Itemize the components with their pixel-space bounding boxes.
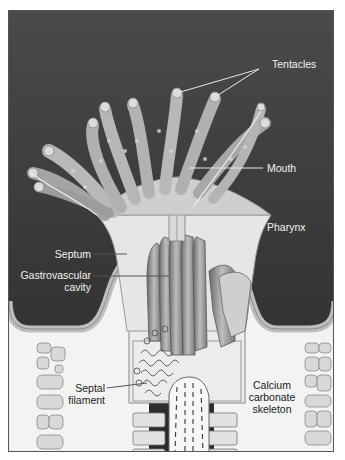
skeleton-spine	[169, 377, 209, 452]
label-gastrovascular-line2: cavity	[15, 281, 91, 293]
label-septal-line2: filament	[49, 394, 105, 406]
label-calcium-line3: skeleton	[243, 403, 301, 415]
label-calcium-carbonate-skeleton: Calcium carbonate skeleton	[243, 379, 301, 415]
label-gastrovascular-line1: Gastrovascular	[15, 269, 91, 281]
label-pharynx: Pharynx	[267, 221, 306, 233]
label-calcium-line1: Calcium	[243, 379, 301, 391]
label-gastrovascular-cavity: Gastrovascular cavity	[15, 269, 91, 293]
label-septal-line1: Septal	[49, 382, 105, 394]
label-septal-filament: Septal filament	[49, 382, 105, 406]
label-mouth: Mouth	[267, 162, 296, 174]
coral-polyp-diagram: Tentacles Mouth Pharynx Septum Gastrovas…	[8, 10, 334, 452]
label-septum: Septum	[45, 248, 91, 260]
label-tentacles: Tentacles	[272, 58, 316, 70]
label-calcium-line2: carbonate	[243, 391, 301, 403]
